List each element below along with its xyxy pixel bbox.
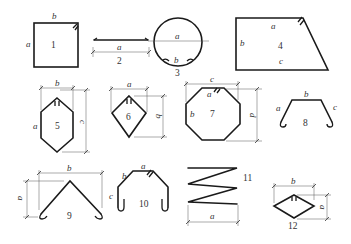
label-c: c <box>279 56 283 66</box>
inverted-v-bar <box>41 181 101 214</box>
shape-number: 12 <box>288 221 298 231</box>
shape-2: a 2 <box>91 38 151 66</box>
shape-4: a b 4 c <box>236 17 328 70</box>
shape-number: 9 <box>67 211 72 221</box>
hook-mark <box>292 197 296 201</box>
label-c: c <box>109 191 113 201</box>
shape-8: b a c 8 <box>276 89 337 128</box>
hook-mark <box>127 99 131 104</box>
shape-12: b a 12 <box>272 176 331 231</box>
label-a: a <box>26 39 31 49</box>
label-b: b <box>122 171 127 181</box>
label-b: b <box>67 163 72 173</box>
label-b: b <box>55 78 60 88</box>
label-a: a <box>276 103 281 113</box>
zigzag-bar <box>188 168 237 204</box>
label-a: a <box>207 89 212 99</box>
rhombus-stirrup <box>274 195 314 218</box>
shape-3: a b 3 <box>148 18 209 78</box>
shape-number: 5 <box>55 121 60 131</box>
label-a: a <box>127 79 132 89</box>
label-b: b <box>291 176 296 186</box>
shape-1: b a 1 <box>26 11 78 67</box>
label-a: a <box>318 205 328 210</box>
hook-mark <box>55 101 59 106</box>
shape-number: 11 <box>243 173 252 183</box>
shape-number: 1 <box>51 40 56 50</box>
shape-number: 7 <box>210 109 215 119</box>
label-a: a <box>117 42 122 52</box>
label-b: b <box>304 89 309 99</box>
shape-5: b a 5 c <box>33 78 90 154</box>
label-a: a <box>175 31 180 41</box>
shape-10: a b c 10 <box>109 161 168 211</box>
label-a: a <box>210 211 215 221</box>
shape-number: 4 <box>278 41 283 51</box>
shape-number: 2 <box>117 56 122 66</box>
label-b: b <box>154 114 164 119</box>
label-a: a <box>271 21 276 31</box>
label-c: c <box>333 102 337 112</box>
label-b: b <box>52 11 57 21</box>
shape-number: 6 <box>126 112 131 122</box>
shape-number: 8 <box>303 118 308 128</box>
label-a: a <box>141 161 146 171</box>
label-b: b <box>190 109 195 119</box>
shape-11: a 11 <box>186 168 252 226</box>
square-stirrup <box>34 23 78 67</box>
label-d: d <box>248 113 258 118</box>
label-b: b <box>174 55 179 65</box>
shape-number: 3 <box>175 68 180 78</box>
shape-6: a 6 b <box>109 79 167 139</box>
label-b: b <box>240 38 245 48</box>
shape-number: 10 <box>139 199 149 209</box>
rebar-shapes-diagram: b a 1 a 2 a b 3 a b 4 c <box>0 0 351 244</box>
shape-7: c a b 7 d <box>184 74 262 143</box>
label-c: c <box>210 74 214 84</box>
label-c: c <box>78 120 88 124</box>
label-a: a <box>16 196 26 201</box>
shape-9: b a 9 <box>16 163 104 221</box>
label-a: a <box>33 121 38 131</box>
